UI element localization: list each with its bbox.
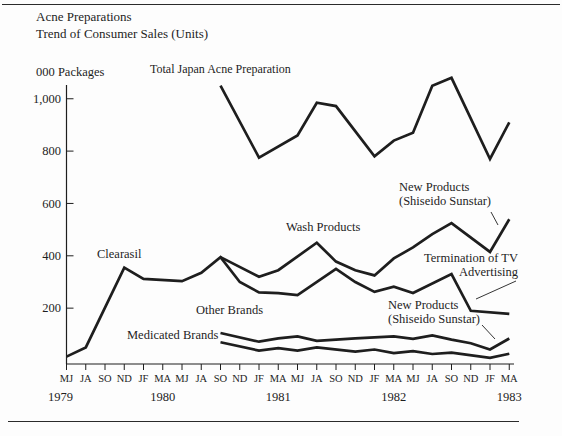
x-tick-label: JF xyxy=(485,373,495,384)
x-tick-label: MJ xyxy=(291,373,304,384)
callout-new-products-top xyxy=(491,212,498,225)
x-tick-label: ND xyxy=(348,373,364,384)
x-tick-label: JF xyxy=(370,373,380,384)
annotation-new-products-top: New Products (Shiseido Sunstar) xyxy=(399,181,491,208)
x-year-label: 1981 xyxy=(266,390,291,404)
annotation-total-japan: Total Japan Acne Preparation xyxy=(150,63,291,77)
x-tick-label: JA xyxy=(195,373,207,384)
chart-panel: Acne Preparations Trend of Consumer Sale… xyxy=(0,0,562,436)
x-tick-label: MJ xyxy=(60,373,73,384)
callout-termination-of-tv xyxy=(476,281,516,299)
x-tick-label: MA xyxy=(270,373,287,384)
annotation-wash-products: Wash Products xyxy=(286,221,360,235)
y-tick-label: 600 xyxy=(42,197,61,211)
x-tick-label: JA xyxy=(311,373,323,384)
x-tick-label: SO xyxy=(445,373,459,384)
x-tick-label: ND xyxy=(232,373,248,384)
x-tick-label: SO xyxy=(214,373,228,384)
x-tick-label: MA xyxy=(154,373,171,384)
x-year-label: 1982 xyxy=(381,390,406,404)
annotation-clearasil: Clearasil xyxy=(97,248,141,262)
callout-new-products-bottom xyxy=(482,325,495,339)
x-tick-label: JF xyxy=(139,373,149,384)
y-tick-label: 800 xyxy=(42,144,61,158)
x-tick-label: MJ xyxy=(175,373,188,384)
y-tick-label: 400 xyxy=(42,249,61,263)
x-tick-label: JF xyxy=(254,373,264,384)
annotation-new-products-bottom: New Products (Shiseido Sunstar) xyxy=(388,299,480,326)
x-year-label: 1979 xyxy=(48,390,73,404)
x-tick-label: MA xyxy=(501,373,518,384)
y-tick-label: 200 xyxy=(42,301,61,315)
x-tick-label: JA xyxy=(80,373,92,384)
x-tick-label: SO xyxy=(98,373,112,384)
annotation-termination-of-tv: Termination of TV Advertising xyxy=(424,252,518,279)
annotation-medicated-brands: Medicated Brands xyxy=(127,329,218,343)
x-tick-label: SO xyxy=(329,373,343,384)
x-tick-label: ND xyxy=(117,373,133,384)
x-tick-label: ND xyxy=(463,373,479,384)
x-tick-label: MA xyxy=(385,373,402,384)
x-tick-label: MJ xyxy=(406,373,419,384)
annotation-other-brands: Other Brands xyxy=(196,304,263,318)
series-total-japan-acne-preparation-line xyxy=(221,78,510,159)
x-year-label: 1983 xyxy=(497,390,522,404)
series-other-brands-line xyxy=(221,333,510,350)
x-year-label: 1980 xyxy=(150,390,175,404)
y-axis-unit-label: 000 Packages xyxy=(36,66,104,80)
y-tick-label: 1,000 xyxy=(33,92,61,106)
x-tick-label: JA xyxy=(426,373,438,384)
series-medicated-brands-line xyxy=(221,342,510,358)
